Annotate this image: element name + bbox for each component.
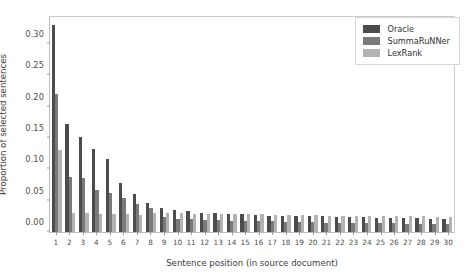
x-axis-tick: 18 (279, 234, 293, 248)
x-axis-tick-mark (381, 232, 382, 235)
x-axis-tick-label: 25 (374, 238, 388, 247)
x-axis-tick: 3 (76, 234, 90, 248)
bar-lexrank-16 (260, 214, 263, 232)
x-axis-tick: 15 (238, 234, 252, 248)
x-axis-tick-label: 7 (130, 238, 144, 247)
y-axis-tick-label: 0.05 (25, 186, 44, 196)
x-axis-tick: 8 (144, 234, 158, 248)
bar-group (198, 17, 211, 232)
x-axis-tick-group: 1234567891011121314151617181920212223242… (49, 234, 455, 248)
x-axis-tick-mark (340, 232, 341, 235)
bar-lexrank-20 (314, 215, 317, 232)
bar-group (306, 17, 319, 232)
bar-lexrank-30 (449, 217, 452, 232)
y-axis-tick-label: 0.10 (25, 154, 44, 164)
x-axis-tick: 27 (401, 234, 415, 248)
x-axis-tick: 12 (198, 234, 212, 248)
x-axis-tick-mark (232, 232, 233, 235)
x-axis-tick-mark (259, 232, 260, 235)
x-axis-tick: 20 (306, 234, 320, 248)
bar-group (77, 17, 90, 232)
bar-group (239, 17, 252, 232)
x-axis-tick-mark (164, 232, 165, 235)
x-axis-tick-mark (353, 232, 354, 235)
x-axis-tick-mark (286, 232, 287, 235)
x-axis-tick-label: 13 (211, 238, 225, 247)
y-axis-tick-label: 0.25 (25, 60, 44, 70)
legend-label: LexRank (387, 48, 422, 58)
x-axis-tick: 10 (171, 234, 185, 248)
bar-lexrank-15 (247, 214, 250, 232)
bar-group (117, 17, 130, 232)
x-axis-tick-label: 24 (360, 238, 374, 247)
x-axis-tick: 7 (130, 234, 144, 248)
x-axis-tick-label: 17 (266, 238, 280, 247)
x-axis-tick-label: 21 (320, 238, 334, 247)
x-axis-tick-mark (448, 232, 449, 235)
x-axis-tick-label: 20 (306, 238, 320, 247)
x-axis-tick-mark (421, 232, 422, 235)
bar-lexrank-27 (409, 216, 412, 232)
x-axis-tick: 1 (49, 234, 63, 248)
x-axis-tick-mark (299, 232, 300, 235)
bar-lexrank-18 (287, 215, 290, 232)
x-axis-tick: 16 (252, 234, 266, 248)
x-axis-tick: 4 (90, 234, 104, 248)
x-axis-tick: 30 (441, 234, 455, 248)
x-axis-tick-label: 27 (401, 238, 415, 247)
bar-lexrank-5 (112, 214, 115, 232)
x-axis-tick-mark (326, 232, 327, 235)
legend-label: Oracle (387, 24, 414, 34)
x-axis-tick-mark (137, 232, 138, 235)
x-axis-tick: 25 (374, 234, 388, 248)
x-axis-tick-label: 23 (347, 238, 361, 247)
x-axis-tick-label: 30 (441, 238, 455, 247)
x-axis-tick-label: 2 (63, 238, 77, 247)
x-axis-tick: 2 (63, 234, 77, 248)
x-axis-tick-mark (394, 232, 395, 235)
bar-group (266, 17, 279, 232)
x-axis-tick: 19 (293, 234, 307, 248)
bar-lexrank-29 (436, 217, 439, 232)
x-axis-tick-mark (245, 232, 246, 235)
x-axis-tick: 24 (360, 234, 374, 248)
bar-group (131, 17, 144, 232)
x-axis-tick-mark (272, 232, 273, 235)
x-axis-tick-mark (123, 232, 124, 235)
y-axis-label: Proportion of selected sentences (0, 16, 11, 233)
x-axis-tick: 22 (333, 234, 347, 248)
x-axis-tick-label: 6 (117, 238, 131, 247)
y-axis-tick-label: 0.00 (25, 217, 44, 227)
legend-label: SummaRuNNer (387, 36, 450, 46)
x-axis-tick-label: 3 (76, 238, 90, 247)
x-axis-tick: 9 (157, 234, 171, 248)
x-axis-tick-mark (110, 232, 111, 235)
y-axis-tick-label: 0.30 (25, 29, 44, 39)
legend-swatch-oracle (363, 25, 380, 33)
bar-lexrank-12 (207, 214, 210, 232)
bar-group (158, 17, 171, 232)
y-axis-tick-label: 0.20 (25, 92, 44, 102)
x-axis-tick-label: 11 (184, 238, 198, 247)
x-axis-tick: 28 (414, 234, 428, 248)
bar-group (144, 17, 157, 232)
bar-lexrank-10 (180, 213, 183, 232)
bar-group (292, 17, 305, 232)
x-axis-tick-label: 5 (103, 238, 117, 247)
bar-group (319, 17, 332, 232)
x-axis-tick-label: 8 (144, 238, 158, 247)
bar-lexrank-22 (341, 216, 344, 232)
bar-group (90, 17, 103, 232)
x-axis-tick-label: 9 (157, 238, 171, 247)
bar-lexrank-28 (422, 216, 425, 232)
bar-lexrank-17 (274, 215, 277, 232)
bar-group (252, 17, 265, 232)
x-axis-tick-mark (408, 232, 409, 235)
bar-lexrank-6 (126, 214, 129, 232)
bar-group (333, 17, 346, 232)
bar-lexrank-14 (233, 214, 236, 232)
x-axis-tick: 23 (347, 234, 361, 248)
x-axis-tick-mark (205, 232, 206, 235)
x-axis-tick-mark (367, 232, 368, 235)
bar-lexrank-21 (328, 216, 331, 232)
